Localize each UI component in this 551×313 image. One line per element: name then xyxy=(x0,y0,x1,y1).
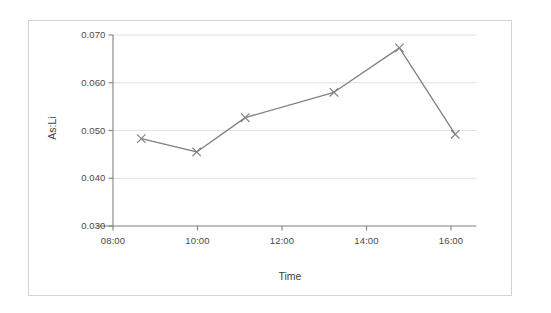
x-axis-tick-label: 16:00 xyxy=(426,235,476,246)
x-axis-tick-label: 08:00 xyxy=(88,235,138,246)
x-axis-tick-label: 12:00 xyxy=(257,235,307,246)
x-axis-title: Time xyxy=(240,270,340,282)
x-axis-tick-label: 10:00 xyxy=(173,235,223,246)
y-axis-title: As:Li xyxy=(46,98,58,158)
x-axis-tick-label: 14:00 xyxy=(342,235,392,246)
y-axis-tick-label: 0.040 xyxy=(54,172,106,183)
chart-frame xyxy=(28,20,512,296)
y-axis-tick-label: 0.060 xyxy=(54,77,106,88)
y-axis-tick-label: 0.050 xyxy=(54,125,106,136)
y-axis-tick-label: 0.070 xyxy=(54,29,106,40)
y-axis-tick-label: 0.030 xyxy=(54,220,106,231)
